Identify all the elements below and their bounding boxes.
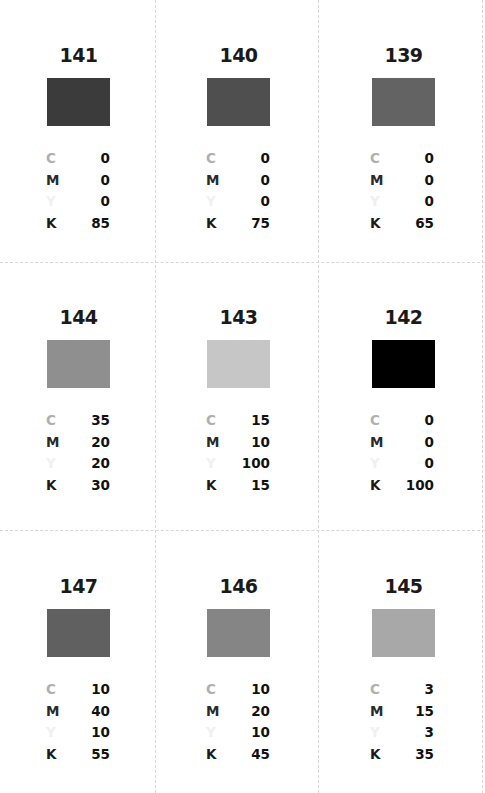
channel-label-m: M: [206, 701, 219, 723]
channel-label-c: C: [370, 679, 380, 701]
cmyk-row-k: K30: [46, 475, 110, 497]
channel-value-c: 0: [425, 148, 434, 170]
cmyk-row-y: Y0: [206, 191, 270, 213]
color-swatch: [372, 78, 435, 126]
channel-value-k: 65: [415, 213, 434, 235]
channel-value-y: 10: [91, 722, 110, 744]
channel-label-y: Y: [206, 453, 216, 475]
channel-label-m: M: [46, 170, 59, 192]
color-swatch: [47, 340, 110, 388]
channel-label-k: K: [370, 213, 380, 235]
channel-value-k: 45: [251, 744, 270, 766]
channel-label-m: M: [46, 432, 59, 454]
cmyk-values: C3M15Y3K35: [370, 679, 434, 765]
channel-value-k: 55: [91, 744, 110, 766]
swatch-card: 142C0M0Y0K100: [320, 262, 482, 524]
channel-label-k: K: [46, 475, 56, 497]
channel-label-m: M: [370, 701, 383, 723]
channel-value-y: 100: [242, 453, 270, 475]
swatch-card: 145C3M15Y3K35: [320, 531, 482, 793]
swatch-number: 141: [1, 44, 156, 66]
channel-label-k: K: [46, 213, 56, 235]
swatch-card: 147C10M40Y10K55: [0, 531, 155, 793]
channel-label-c: C: [206, 410, 216, 432]
channel-label-k: K: [206, 744, 216, 766]
channel-label-m: M: [370, 170, 383, 192]
grid-divider-vertical-1: [155, 0, 156, 793]
channel-label-c: C: [370, 410, 380, 432]
channel-value-k: 35: [415, 744, 434, 766]
cmyk-row-c: C10: [46, 679, 110, 701]
grid-divider-right-edge: [482, 0, 483, 793]
cmyk-row-k: K45: [206, 744, 270, 766]
channel-value-m: 15: [415, 701, 434, 723]
channel-value-m: 0: [425, 170, 434, 192]
cmyk-row-c: C3: [370, 679, 434, 701]
channel-label-m: M: [206, 170, 219, 192]
cmyk-values: C35M20Y20K30: [46, 410, 110, 496]
cmyk-row-y: Y0: [46, 191, 110, 213]
cmyk-row-c: C0: [206, 148, 270, 170]
cmyk-row-c: C0: [370, 410, 434, 432]
channel-value-c: 15: [251, 410, 270, 432]
cmyk-row-m: M20: [46, 432, 110, 454]
grid-divider-vertical-2: [318, 0, 319, 793]
channel-label-y: Y: [206, 191, 216, 213]
channel-value-m: 40: [91, 701, 110, 723]
channel-value-y: 0: [261, 191, 270, 213]
channel-label-y: Y: [46, 191, 56, 213]
channel-value-m: 0: [101, 170, 110, 192]
cmyk-row-y: Y10: [46, 722, 110, 744]
channel-value-c: 10: [91, 679, 110, 701]
color-swatch: [47, 78, 110, 126]
channel-label-y: Y: [46, 722, 56, 744]
cmyk-row-m: M0: [46, 170, 110, 192]
swatch-number: 139: [323, 44, 485, 66]
cmyk-row-y: Y3: [370, 722, 434, 744]
cmyk-row-k: K65: [370, 213, 434, 235]
cmyk-row-k: K35: [370, 744, 434, 766]
cmyk-row-y: Y10: [206, 722, 270, 744]
cmyk-row-m: M0: [370, 170, 434, 192]
channel-label-k: K: [370, 744, 380, 766]
cmyk-row-c: C0: [46, 148, 110, 170]
cmyk-row-m: M40: [46, 701, 110, 723]
channel-value-c: 35: [91, 410, 110, 432]
cmyk-values: C0M0Y0K65: [370, 148, 434, 234]
cmyk-row-c: C10: [206, 679, 270, 701]
cmyk-values: C10M20Y10K45: [206, 679, 270, 765]
channel-value-y: 3: [425, 722, 434, 744]
cmyk-row-c: C0: [370, 148, 434, 170]
channel-label-k: K: [206, 475, 216, 497]
color-swatch: [207, 78, 270, 126]
channel-value-m: 10: [251, 432, 270, 454]
swatch-number: 146: [159, 575, 319, 597]
swatch-card: 143C15M10Y100K15: [158, 262, 318, 524]
cmyk-values: C0M0Y0K85: [46, 148, 110, 234]
channel-label-c: C: [46, 410, 56, 432]
channel-value-k: 75: [251, 213, 270, 235]
cmyk-row-k: K100: [370, 475, 434, 497]
channel-label-c: C: [206, 679, 216, 701]
channel-label-c: C: [46, 148, 56, 170]
channel-value-y: 20: [91, 453, 110, 475]
swatch-card: 146C10M20Y10K45: [158, 531, 318, 793]
cmyk-row-y: Y100: [206, 453, 270, 475]
channel-value-y: 10: [251, 722, 270, 744]
channel-label-m: M: [370, 432, 383, 454]
channel-value-k: 30: [91, 475, 110, 497]
channel-label-k: K: [370, 475, 380, 497]
channel-value-c: 0: [261, 148, 270, 170]
channel-label-y: Y: [370, 722, 380, 744]
channel-label-y: Y: [370, 191, 380, 213]
color-swatch: [207, 609, 270, 657]
channel-value-c: 10: [251, 679, 270, 701]
cmyk-row-y: Y20: [46, 453, 110, 475]
cmyk-row-m: M0: [370, 432, 434, 454]
color-swatch: [47, 609, 110, 657]
swatch-number: 143: [159, 306, 319, 328]
swatch-number: 145: [323, 575, 485, 597]
channel-value-c: 0: [101, 148, 110, 170]
channel-value-y: 0: [425, 191, 434, 213]
cmyk-row-m: M15: [370, 701, 434, 723]
